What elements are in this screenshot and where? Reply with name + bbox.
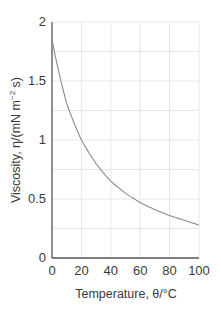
viscosity-chart: 020406080100 00.511.52 Temperature, θ/°C… (0, 0, 221, 311)
x-tick: 40 (104, 263, 118, 278)
x-tick: 100 (188, 263, 210, 278)
y-tick-labels: 00.511.52 (28, 14, 46, 265)
x-tick: 20 (74, 263, 88, 278)
x-tick-labels: 020406080100 (48, 263, 209, 278)
y-tick: 1.5 (28, 73, 46, 88)
x-tick: 80 (162, 263, 176, 278)
viscosity-curve (52, 40, 199, 225)
x-tick: 0 (48, 263, 55, 278)
y-tick: 2 (39, 14, 46, 29)
x-axis-label: Temperature, θ/°C (75, 287, 177, 301)
y-tick: 1 (39, 132, 46, 147)
x-tick: 60 (133, 263, 147, 278)
y-tick: 0 (39, 250, 46, 265)
y-tick: 0.5 (28, 191, 46, 206)
grid-lines (52, 22, 199, 258)
y-axis-label: Viscosity, η/(mN m−2 s) (8, 77, 23, 203)
